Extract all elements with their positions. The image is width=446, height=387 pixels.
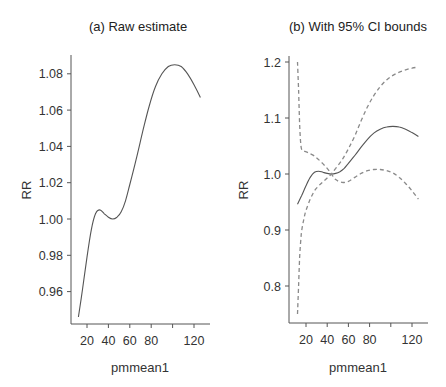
x-tick-label: 40	[320, 333, 334, 347]
y-tick-label: 1.02	[39, 176, 63, 190]
y-tick-label: 1.06	[39, 104, 63, 118]
y-tick-label: 0.9	[264, 224, 281, 238]
panel-a-title: (a) Raw estimate	[89, 19, 187, 34]
y-tick-label: 0.96	[39, 285, 63, 299]
x-tick-label: 20	[80, 334, 94, 348]
x-tick-label: 20	[299, 333, 313, 347]
panel-a-y-axis-label: RR	[19, 181, 34, 200]
panel-a-raw-estimate: (a) Raw estimate RR pmmean1 0.960.981.00…	[19, 19, 210, 375]
y-tick-label: 1.04	[39, 140, 63, 154]
panel-a-plot-area	[78, 65, 200, 317]
panel-b-x-axis-label: pmmean1	[329, 360, 387, 375]
x-tick-label: 60	[123, 334, 137, 348]
y-tick-label: 1.08	[39, 67, 63, 81]
y-tick-label: 0.98	[39, 249, 63, 263]
panel-b-plot-area	[298, 62, 419, 314]
panel-b-y-axis-label: RR	[236, 181, 251, 200]
ci-bound-line	[298, 62, 419, 199]
x-tick-label: 80	[363, 333, 377, 347]
panel-b-title: (b) With 95% CI bounds	[289, 19, 428, 34]
y-tick-label: 1.1	[264, 112, 281, 126]
panel-b-axes: 0.80.91.01.11.220406080120	[264, 56, 428, 348]
y-tick-label: 1.0	[264, 168, 281, 182]
figure: (a) Raw estimate RR pmmean1 0.960.981.00…	[0, 0, 446, 387]
ci-bound-line	[298, 67, 419, 314]
panel-b-with-ci-bounds: (b) With 95% CI bounds RR pmmean1 0.80.9…	[236, 19, 428, 375]
y-tick-label: 1.00	[39, 213, 63, 227]
x-tick-label: 120	[402, 333, 423, 347]
panel-a-x-axis-label: pmmean1	[111, 360, 169, 375]
estimate-line	[78, 65, 200, 317]
x-tick-label: 40	[101, 334, 115, 348]
x-tick-label: 80	[144, 334, 158, 348]
y-tick-label: 1.2	[264, 56, 281, 70]
panel-a-axes: 0.960.981.001.021.041.061.0820406080120	[39, 55, 210, 348]
x-tick-label: 120	[184, 334, 205, 348]
y-tick-label: 0.8	[264, 280, 281, 294]
x-tick-label: 60	[341, 333, 355, 347]
estimate-line	[298, 126, 419, 204]
